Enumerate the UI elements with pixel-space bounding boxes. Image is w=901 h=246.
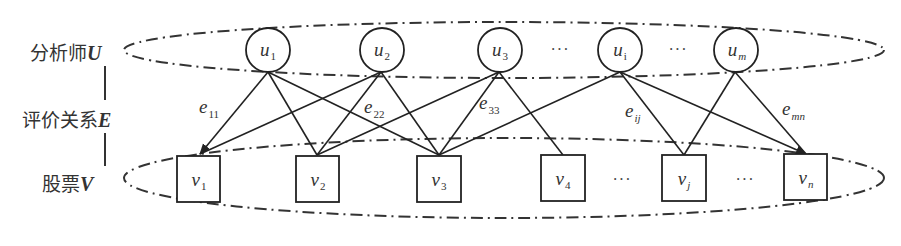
connector-line-bottom [104, 133, 106, 166]
label-base: u [613, 39, 623, 60]
edge-label-eij: eij [625, 100, 641, 124]
stock-ellipsis-1: ··· [613, 171, 632, 189]
label-subscript: i [624, 50, 627, 62]
row-label-analysts: 分析师U [30, 38, 101, 65]
label-base: u [260, 39, 270, 60]
label-base: e [625, 100, 633, 121]
stock-nodes [177, 154, 827, 202]
stock-ellipsis-2: ··· [736, 171, 755, 189]
row-label-stocks: 股票V [42, 169, 93, 196]
label-subscript: 22 [373, 108, 384, 120]
analyst-ellipsis-2: ··· [669, 41, 688, 59]
analysts-label-symbol: U [87, 42, 101, 64]
label-base: v [432, 169, 440, 190]
analyst-label-ui: ui [613, 39, 627, 62]
analyst-label-u1: u1 [260, 39, 276, 62]
label-subscript: n [808, 178, 814, 190]
edge-u2-v3 [381, 72, 439, 155]
row-label-relations: 评价关系E [22, 105, 111, 132]
label-subscript: 33 [488, 104, 499, 116]
label-base: v [192, 169, 200, 190]
label-base: u [374, 39, 384, 60]
edge-label-e33: e33 [479, 92, 499, 116]
label-base: e [479, 92, 487, 113]
edge-ui-v3 [439, 72, 620, 155]
analyst-label-u2: u2 [374, 39, 390, 62]
stock-label-vj: vj [678, 168, 691, 191]
label-base: e [782, 98, 790, 119]
label-subscript: m [738, 50, 746, 62]
label-subscript: ij [634, 112, 640, 124]
stock-label-v4: v4 [556, 168, 571, 191]
stocks-label-text: 股票 [42, 173, 80, 195]
connector-line-top [104, 66, 106, 100]
analyst-label-um: um [728, 39, 746, 62]
stock-group-ellipse [124, 138, 884, 218]
label-subscript: j [687, 179, 690, 191]
label-base: v [678, 168, 686, 189]
analysts-label-text: 分析师 [30, 42, 87, 64]
label-base: v [311, 169, 319, 190]
label-subscript: 11 [208, 108, 219, 120]
bipartite-graph-canvas [0, 0, 901, 246]
analyst-ellipsis-1: ··· [551, 41, 570, 59]
stock-label-v1: v1 [192, 169, 207, 192]
label-subscript: 1 [271, 50, 277, 62]
stocks-label-symbol: V [80, 173, 93, 195]
label-subscript: 4 [565, 179, 571, 191]
relations-label-symbol: E [98, 109, 111, 131]
label-subscript: 2 [320, 180, 326, 192]
edge-um-vj [684, 72, 735, 155]
label-base: v [799, 167, 807, 188]
label-base: v [556, 168, 564, 189]
analyst-label-u3: u3 [492, 39, 508, 62]
stock-label-v3: v3 [432, 169, 447, 192]
edge-label-e11: e11 [199, 96, 219, 120]
label-subscript: 3 [441, 180, 447, 192]
stock-label-v2: v2 [311, 169, 326, 192]
relations-label-text: 评价关系 [22, 109, 98, 131]
stock-label-vn: vn [799, 167, 814, 190]
edge-label-emn: emn [782, 98, 805, 122]
label-subscript: 3 [503, 50, 509, 62]
edge-label-e22: e22 [364, 96, 384, 120]
label-base: u [492, 39, 502, 60]
label-base: e [199, 96, 207, 117]
label-subscript: 2 [385, 50, 391, 62]
label-subscript: 1 [201, 180, 207, 192]
edges [200, 72, 806, 155]
edge-u3-v2 [317, 72, 499, 155]
label-subscript: mn [791, 110, 804, 122]
label-base: u [728, 39, 738, 60]
label-base: e [364, 96, 372, 117]
